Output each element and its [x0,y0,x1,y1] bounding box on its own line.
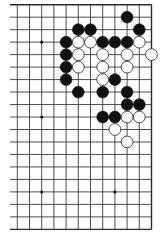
black-stone [133,99,145,111]
star-point [113,190,116,193]
black-stone [97,111,109,123]
black-stone [121,36,133,48]
white-stone [121,111,133,123]
black-stone [97,36,109,48]
black-stone [97,86,109,98]
black-stone [133,24,145,36]
black-stone [60,61,72,73]
white-stone [72,61,84,73]
white-stone [133,36,145,48]
white-stone [146,49,158,61]
black-stone [121,11,133,23]
white-stone [121,136,133,148]
black-stone [60,49,72,61]
black-stone [85,24,97,36]
black-stone [109,111,121,123]
white-stone [85,36,97,48]
black-stone [72,86,84,98]
white-stone [97,49,109,61]
white-stone [121,49,133,61]
white-stone [97,61,109,73]
star-point [40,41,43,44]
star-point [40,190,43,193]
white-stone [72,49,84,61]
go-board[interactable] [0,0,163,239]
black-stone [121,86,133,98]
star-point [40,115,43,118]
white-stone [72,36,84,48]
black-stone [121,99,133,111]
black-stone [60,74,72,86]
black-stone [109,74,121,86]
black-stone [60,36,72,48]
black-stone [109,36,121,48]
black-stone [72,24,84,36]
white-stone [121,61,133,73]
white-stone [133,111,145,123]
white-stone [97,74,109,86]
white-stone [109,124,121,136]
